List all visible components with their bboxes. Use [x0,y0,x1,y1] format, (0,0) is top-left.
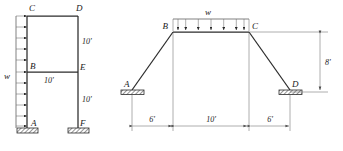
joint-label-C: C [29,3,36,13]
load-label-w: w [4,71,10,81]
support-F-fixed [68,128,89,133]
right-frame-supports [121,90,302,95]
frames-diagram-svg: C D B E A F w 10' 10' 10' [0,0,343,151]
left-frame-supports [17,128,89,133]
member-left-leg-AB [132,32,173,90]
joint-label-B: B [163,21,169,31]
member-right-leg-CD [249,32,290,90]
joint-label-F: F [79,118,86,128]
joint-label-A: A [30,118,37,128]
right-frame-witness-lines [132,32,328,131]
left-frame-distributed-load [16,16,27,128]
support-A-fixed [17,128,38,133]
right-frame-distributed-load [173,19,249,31]
load-label-w: w [205,7,211,17]
dim-upper-story-height: 10' [82,37,92,46]
support-A-pinned [121,90,144,95]
dim-span-BE: 10' [44,76,54,85]
joint-label-C: C [252,21,259,31]
joint-label-D: D [75,3,83,13]
dim-center-span: 10' [206,115,216,124]
dim-lower-story-height: 10' [82,95,92,104]
joint-label-B: B [30,61,36,71]
left-frame-group: C D B E A F w 10' 10' 10' [4,3,92,133]
figure-root: C D B E A F w 10' 10' 10' [0,0,343,151]
right-frame-members [132,32,290,90]
joint-label-D: D [291,79,299,89]
dim-left-offset: 6' [149,115,155,124]
joint-label-A: A [123,79,130,89]
dim-vertical-rise: 8' [325,58,331,67]
left-frame-members [27,16,78,128]
joint-label-E: E [79,62,86,72]
right-frame-group: B C A D w 6' 10' 6' 8' [121,7,331,131]
dim-right-offset: 6' [267,115,273,124]
